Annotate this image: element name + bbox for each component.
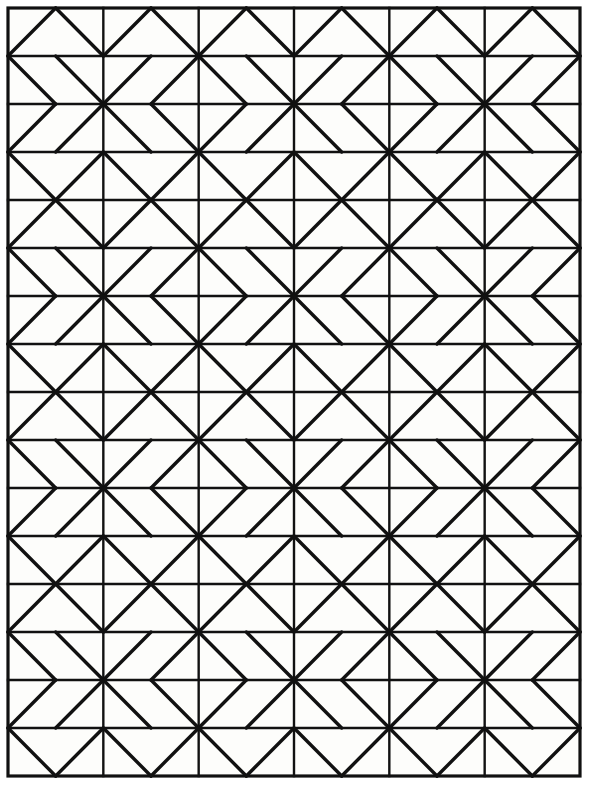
pattern-canvas — [0, 0, 596, 787]
pattern-svg — [0, 0, 596, 787]
